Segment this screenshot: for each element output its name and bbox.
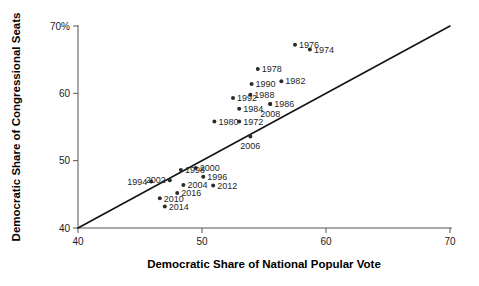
point-label-2016: 2016 [181, 188, 201, 198]
data-point-1980 [212, 120, 216, 124]
point-label-1988: 1988 [254, 90, 274, 100]
y-tick-label-40: 40 [59, 223, 71, 234]
data-point-2014 [163, 204, 167, 208]
x-tick-label-40: 40 [72, 236, 84, 247]
point-label-1982: 1982 [285, 76, 305, 86]
plot-area: 40506070%40506070 1972197419761978198019… [0, 0, 479, 286]
data-point-1982 [279, 79, 283, 83]
y-tick-label-70: 70% [50, 21, 70, 32]
point-labels: 1972197419761978198019821984198619881990… [127, 40, 334, 212]
x-axis-title: Democratic Share of National Popular Vot… [147, 258, 381, 270]
x-tick-label-60: 60 [320, 236, 332, 247]
point-label-2008: 2008 [260, 109, 280, 119]
reference-line [78, 26, 450, 228]
data-point-1992 [231, 96, 235, 100]
point-label-1986: 1986 [274, 99, 294, 109]
point-label-2000: 2000 [200, 163, 220, 173]
y-tick-label-60: 60 [59, 88, 71, 99]
point-label-2006: 2006 [240, 141, 260, 151]
point-label-1990: 1990 [256, 79, 276, 89]
point-label-2012: 2012 [217, 181, 237, 191]
data-point-2012 [211, 184, 215, 188]
data-point-1998 [179, 168, 183, 172]
point-label-1976: 1976 [299, 40, 319, 50]
point-label-1980: 1980 [218, 117, 238, 127]
x-tick-label-70: 70 [444, 236, 456, 247]
forty-five-degree-line [78, 26, 450, 228]
scatter-chart: 40506070%40506070 1972197419761978198019… [0, 0, 479, 286]
data-point-2004 [181, 183, 185, 187]
data-point-2010 [158, 196, 162, 200]
data-point-1984 [237, 107, 241, 111]
data-point-1996 [201, 175, 205, 179]
data-point-2008 [268, 102, 272, 106]
data-point-1990 [250, 82, 254, 86]
data-point-2002 [168, 178, 172, 182]
y-axis-title: Democratic Share of Congressional Seats [10, 13, 22, 242]
x-tick-label-50: 50 [196, 236, 208, 247]
point-label-1992: 1992 [237, 93, 257, 103]
data-point-2006 [248, 134, 252, 138]
data-point-1976 [293, 43, 297, 47]
point-label-2002: 2002 [146, 175, 166, 185]
data-point-1978 [256, 67, 260, 71]
point-label-2014: 2014 [169, 202, 189, 212]
point-label-1978: 1978 [262, 64, 282, 74]
y-tick-label-50: 50 [59, 155, 71, 166]
point-label-1994: 1994 [127, 177, 147, 187]
